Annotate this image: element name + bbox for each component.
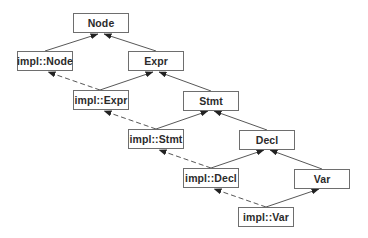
node-box-var: Var — [294, 169, 350, 189]
solid-edge-stmt-to-expr — [159, 72, 211, 91]
solid-edge-impl-stmt-to-stmt — [156, 111, 208, 129]
solid-edge-impl-decl-to-decl — [211, 150, 264, 168]
node-box-impl-node: impl::Node — [17, 51, 73, 71]
edges-layer — [0, 0, 368, 238]
solid-edge-expr-to-node — [104, 34, 156, 51]
node-box-impl-expr: impl::Expr — [73, 90, 129, 110]
dashed-edge-impl-decl-to-impl-stmt — [159, 150, 211, 168]
node-box-impl-var: impl::Var — [238, 207, 294, 227]
node-box-stmt: Stmt — [183, 91, 239, 111]
solid-edge-impl-expr-to-expr — [100, 72, 153, 90]
dashed-edge-impl-stmt-to-impl-expr — [104, 111, 156, 129]
node-box-impl-stmt: impl::Stmt — [128, 129, 184, 149]
node-box-expr: Expr — [128, 51, 184, 71]
dashed-edge-impl-var-to-impl-decl — [214, 189, 266, 207]
node-box-decl: Decl — [239, 130, 295, 150]
node-box-impl-decl: impl::Decl — [183, 168, 239, 188]
dashed-edge-impl-expr-to-impl-node — [48, 72, 100, 90]
solid-edge-decl-to-stmt — [214, 111, 267, 130]
node-box-node: Node — [73, 13, 129, 33]
solid-edge-impl-var-to-var — [266, 189, 319, 207]
class-hierarchy-diagram: Nodeimpl::NodeExprimpl::ExprStmtimpl::St… — [0, 0, 368, 238]
solid-edge-var-to-decl — [270, 150, 322, 169]
solid-edge-impl-node-to-node — [45, 34, 98, 51]
